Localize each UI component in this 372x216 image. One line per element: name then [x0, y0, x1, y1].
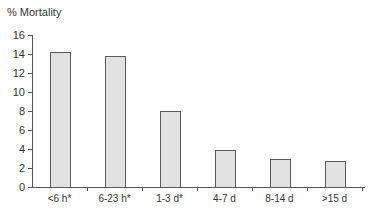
x-tick-mark	[142, 187, 143, 191]
bar-4	[270, 159, 291, 189]
y-tick-label: 10	[0, 86, 25, 98]
y-tick-mark	[28, 130, 32, 131]
bar-0	[50, 52, 71, 188]
x-tick-label: >15 d	[307, 193, 362, 204]
x-tick-label: 8-14 d	[252, 193, 307, 204]
x-tick-label: 1-3 d*	[142, 193, 197, 204]
y-tick-label: 2	[0, 162, 25, 174]
x-axis-line	[32, 187, 365, 188]
x-tick-label: <6 h*	[32, 193, 87, 204]
x-tick-mark	[307, 187, 308, 191]
y-tick-mark	[28, 35, 32, 36]
x-tick-label: 6-23 h*	[87, 193, 142, 204]
y-tick-label: 16	[0, 29, 25, 41]
y-axis-title: % Mortality	[7, 6, 61, 18]
x-tick-mark	[362, 187, 363, 191]
y-axis-line	[32, 35, 33, 187]
bar-1	[105, 56, 126, 188]
y-tick-label: 6	[0, 124, 25, 136]
bar-2	[160, 111, 181, 188]
y-tick-mark	[28, 168, 32, 169]
y-tick-mark	[28, 187, 32, 188]
y-tick-mark	[28, 54, 32, 55]
y-tick-label: 12	[0, 67, 25, 79]
y-tick-mark	[28, 73, 32, 74]
y-tick-label: 0	[0, 181, 25, 193]
y-tick-label: 14	[0, 48, 25, 60]
bar-chart: % Mortality 0246810121416 <6 h*6-23 h*1-…	[0, 0, 372, 216]
bar-3	[215, 150, 236, 188]
x-tick-mark	[252, 187, 253, 191]
x-tick-mark	[197, 187, 198, 191]
x-tick-mark	[87, 187, 88, 191]
y-tick-label: 4	[0, 143, 25, 155]
x-tick-label: 4-7 d	[197, 193, 252, 204]
bar-5	[325, 161, 346, 188]
y-tick-mark	[28, 149, 32, 150]
y-tick-mark	[28, 92, 32, 93]
y-tick-label: 8	[0, 105, 25, 117]
y-tick-mark	[28, 111, 32, 112]
